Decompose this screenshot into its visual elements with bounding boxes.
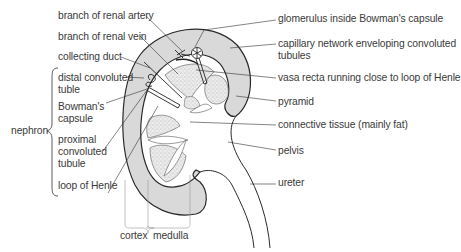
label-proximal-line3: tubule <box>58 158 107 170</box>
pelvis-ureter <box>200 116 270 248</box>
label-distal-line2: tuble <box>58 84 133 96</box>
label-distal-line1: distal convoluted <box>58 72 133 84</box>
label-collecting-duct: collecting duct <box>58 51 122 63</box>
label-capillary-line2: tubules <box>278 50 456 62</box>
label-branch-renal-vein: branch of renal vein <box>58 31 146 43</box>
label-bowmans-line2: capsule <box>58 113 104 125</box>
label-bowmans-line1: Bowman's <box>58 101 104 113</box>
label-nephron: nephron <box>11 125 48 137</box>
label-ureter: ureter <box>278 177 304 189</box>
label-proximal-line1: proximal <box>58 134 107 146</box>
label-loop-of-henle: loop of Henle <box>58 180 117 192</box>
nephron-bracket <box>47 68 58 196</box>
label-pyramid: pyramid <box>278 96 314 108</box>
label-proximal-convoluted-tubule: proximal convoluted tubule <box>58 134 107 170</box>
label-capillary-network: capillary network enveloping convoluted … <box>278 38 456 62</box>
label-connective-tissue: connective tissue (mainly fat) <box>278 119 408 131</box>
label-proximal-line2: convoluted <box>58 146 107 158</box>
label-cortex: cortex <box>120 230 147 242</box>
label-branch-renal-artery: branch of renal artery <box>58 10 154 22</box>
label-medulla: medulla <box>153 230 188 242</box>
label-bowmans-capsule: Bowman's capsule <box>58 101 104 125</box>
label-capillary-line1: capillary network enveloping convoluted <box>278 38 456 50</box>
kidney-cortex <box>123 29 251 215</box>
label-glomerulus: glomerulus inside Bowman's capsule <box>278 13 443 25</box>
label-distal-convoluted-tubule: distal convoluted tuble <box>58 72 133 96</box>
label-vasa-recta: vasa recta running close to loop of Henl… <box>278 72 461 84</box>
label-pelvis: pelvis <box>278 145 304 157</box>
